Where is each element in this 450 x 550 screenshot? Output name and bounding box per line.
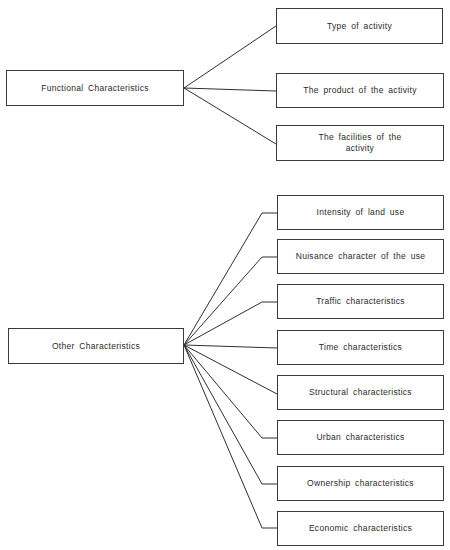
connector-other-traffic xyxy=(184,302,277,345)
node-label: The product of the activity xyxy=(303,85,416,96)
connector-other-nuisance xyxy=(184,257,277,345)
node-label: Nuisance character of the use xyxy=(296,251,426,262)
node-product-of-activity: The product of the activity xyxy=(276,73,444,108)
node-intensity-of-land-use: Intensity of land use xyxy=(277,195,444,230)
connector-functional-product xyxy=(184,88,276,91)
connector-other-urban xyxy=(184,345,277,438)
node-ownership-characteristics: Ownership characteristics xyxy=(277,466,444,501)
root-other-characteristics: Other Characteristics xyxy=(8,328,184,364)
connector-functional-facilities xyxy=(184,88,276,144)
node-label: Ownership characteristics xyxy=(307,478,414,489)
node-facilities-of-activity: The facilities of the activity xyxy=(276,125,444,161)
connector-functional-type xyxy=(184,26,276,88)
node-urban-characteristics: Urban characteristics xyxy=(277,420,444,455)
node-label: Economic characteristics xyxy=(309,523,412,534)
node-label: Functional Characteristics xyxy=(41,83,149,94)
node-label: Other Characteristics xyxy=(52,341,140,352)
node-type-of-activity: Type of activity xyxy=(276,8,443,44)
node-label: Type of activity xyxy=(327,21,392,32)
connector-other-ownership xyxy=(184,345,277,484)
node-nuisance-character: Nuisance character of the use xyxy=(277,239,444,274)
node-label: Traffic characteristics xyxy=(316,296,405,307)
node-label: Intensity of land use xyxy=(317,207,405,218)
connector-other-economic xyxy=(184,345,277,528)
node-economic-characteristics: Economic characteristics xyxy=(277,511,444,546)
node-traffic-characteristics: Traffic characteristics xyxy=(277,284,444,319)
node-structural-characteristics: Structural characteristics xyxy=(277,375,444,410)
node-label: Urban characteristics xyxy=(316,432,404,443)
connector-other-intensity xyxy=(184,213,277,345)
node-label: Structural characteristics xyxy=(309,387,412,398)
root-functional-characteristics: Functional Characteristics xyxy=(6,70,184,106)
node-time-characteristics: Time characteristics xyxy=(277,330,444,365)
node-label: Time characteristics xyxy=(319,342,402,353)
connector-other-time xyxy=(184,345,277,348)
node-label: The facilities of the activity xyxy=(307,132,413,154)
